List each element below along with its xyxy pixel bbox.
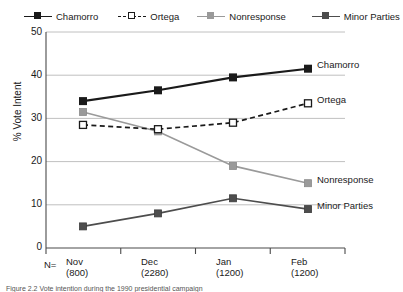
data-point-ortega-dec [155,126,162,133]
data-point-nonresponse-feb [305,180,312,187]
data-point-minor-parties-dec [155,210,162,217]
inline-label-minor-parties: Minor Parties [317,200,373,211]
data-point-chamorro-jan [229,73,237,81]
plot-area: % Vote Intent 50 40 30 20 10 0 [0,26,403,258]
x-label-nov: Nov (800) [66,256,136,278]
legend-marker-nonresponse-icon [197,11,225,21]
x-label-dec-month: Dec [141,256,158,267]
x-label-dec: Dec (2280) [141,256,211,278]
data-point-ortega-feb [305,100,312,107]
data-point-nonresponse-jan [230,162,237,169]
x-axis-labels: N= Nov (800) Dec (2280) Jan (1200) Feb (… [0,256,403,286]
data-point-minor-parties-jan [230,195,237,202]
legend-label-nonresponse: Nonresponse [229,11,286,22]
x-label-feb: Feb (1200) [291,256,361,278]
gridlines [46,32,345,205]
series-ortega [80,100,312,133]
x-label-feb-n: (1200) [291,267,361,278]
data-point-chamorro-feb [304,65,312,73]
x-label-feb-month: Feb [291,256,307,267]
legend-item-chamorro[interactable]: Chamorro [24,11,98,22]
series-minor-parties [80,195,312,230]
x-label-nov-month: Nov [66,256,83,267]
chart-legend: Chamorro Ortega Nonresponse Minor Partie… [24,8,399,24]
legend-marker-ortega-icon [118,11,146,21]
legend-item-ortega[interactable]: Ortega [118,11,179,22]
legend-marker-minor-parties-icon [312,11,340,21]
x-label-jan: Jan (1200) [216,256,286,278]
inline-label-chamorro: Chamorro [317,59,359,70]
data-point-ortega-nov [80,121,87,128]
data-point-chamorro-dec [154,86,162,94]
series-nonresponse [80,108,312,186]
inline-label-ortega: Ortega [317,94,346,105]
data-point-minor-parties-nov [80,223,87,230]
x-label-jan-month: Jan [216,256,231,267]
legend-label-ortega: Ortega [150,11,179,22]
inline-label-nonresponse: Nonresponse [317,174,374,185]
data-point-chamorro-nov [79,97,87,105]
data-point-ortega-jan [230,119,237,126]
series-chamorro [79,65,312,105]
x-label-dec-n: (2280) [141,267,211,278]
figure-container: Chamorro Ortega Nonresponse Minor Partie… [0,0,403,292]
data-point-minor-parties-feb [305,206,312,213]
figure-caption: Figure 2.2 Vote intention during the 199… [6,285,203,292]
sample-size-prefix: N= [44,259,56,270]
x-label-nov-n: (800) [66,267,136,278]
legend-label-minor-parties: Minor Parties [344,11,400,22]
legend-item-minor-parties[interactable]: Minor Parties [312,11,400,22]
data-point-nonresponse-nov [80,108,87,115]
legend-item-nonresponse[interactable]: Nonresponse [197,11,286,22]
legend-label-chamorro: Chamorro [56,11,98,22]
axis-lines [46,32,345,254]
legend-marker-chamorro-icon [24,11,52,21]
x-label-jan-n: (1200) [216,267,286,278]
